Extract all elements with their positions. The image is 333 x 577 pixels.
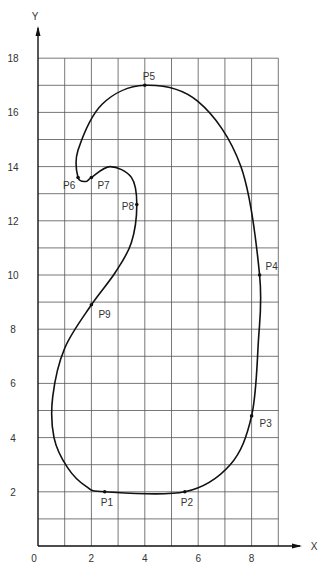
- control-point-marker: [90, 303, 94, 307]
- control-point-marker: [76, 176, 80, 180]
- y-tick-label: 6: [10, 378, 16, 389]
- control-point-marker: [103, 490, 107, 494]
- control-point-marker: [135, 203, 139, 207]
- y-tick-label: 12: [7, 216, 19, 227]
- control-point-marker: [250, 414, 254, 418]
- control-point-marker: [183, 490, 187, 494]
- control-points: P1P2P3P4P5P6P7P8P9: [63, 71, 278, 508]
- spline-plot: YX0246824681012141618 P1P2P3P4P5P6P7P8P9: [0, 0, 333, 577]
- x-axis-label: X: [311, 541, 318, 552]
- y-tick-label: 14: [7, 162, 19, 173]
- spline-curve: [52, 85, 261, 494]
- x-tick-label: 6: [195, 553, 201, 564]
- y-axis-label: Y: [32, 11, 39, 22]
- tick-labels: YX0246824681012141618: [7, 11, 317, 564]
- x-tick-label: 8: [249, 553, 255, 564]
- y-tick-label: 10: [7, 270, 19, 281]
- grid: [38, 58, 278, 546]
- control-point-label-p9: P9: [98, 309, 111, 320]
- control-point-label-p6: P6: [63, 180, 76, 191]
- control-point-marker: [143, 84, 147, 88]
- chart: YX0246824681012141618 P1P2P3P4P5P6P7P8P9: [0, 0, 333, 577]
- y-tick-label: 18: [7, 53, 19, 64]
- control-point-marker: [258, 273, 262, 277]
- y-tick-label: 16: [7, 107, 19, 118]
- x-tick-label: 2: [89, 553, 95, 564]
- control-point-label-p3: P3: [260, 418, 273, 429]
- control-point-label-p7: P7: [97, 180, 110, 191]
- y-tick-label: 2: [10, 487, 16, 498]
- origin-label: 0: [31, 553, 37, 564]
- control-point-label-p2: P2: [181, 497, 194, 508]
- control-point-label-p1: P1: [101, 497, 114, 508]
- axes: [36, 26, 303, 549]
- y-tick-label: 8: [10, 324, 16, 335]
- control-point-marker: [90, 176, 94, 180]
- control-point-label-p5: P5: [143, 71, 156, 82]
- y-tick-label: 4: [10, 433, 16, 444]
- x-tick-label: 4: [142, 553, 148, 564]
- control-point-label-p8: P8: [122, 201, 135, 212]
- x-axis-arrow-icon: [292, 544, 302, 549]
- y-axis-arrow-icon: [36, 26, 41, 36]
- control-point-label-p4: P4: [266, 261, 279, 272]
